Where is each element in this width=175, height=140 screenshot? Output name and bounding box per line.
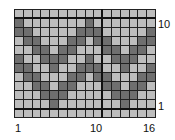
chart-cell (24, 19, 32, 27)
chart-cell (121, 82, 129, 90)
chart-cell (15, 64, 23, 72)
chart-cell (41, 100, 49, 108)
chart-cell (130, 100, 138, 108)
chart-cell (86, 64, 94, 72)
chart-cell (147, 64, 155, 72)
chart-cell (50, 64, 58, 72)
chart-cell (130, 19, 138, 27)
chart-cell (68, 55, 76, 63)
row-10-top-divider (14, 17, 156, 19)
chart-cell (33, 46, 41, 54)
chart-cell (112, 100, 120, 108)
chart-cell (50, 19, 58, 27)
chart-cell (138, 37, 146, 45)
chart-cell (15, 19, 23, 27)
chart-cell (50, 46, 58, 54)
chart-cell (33, 91, 41, 99)
chart-cell (147, 19, 155, 27)
chart-cell (121, 64, 129, 72)
chart-cell (138, 55, 146, 63)
chart-cell (24, 46, 32, 54)
chart-cell (86, 109, 94, 117)
chart-cell (112, 37, 120, 45)
column-label-10: 10 (90, 123, 102, 134)
chart-cell (15, 55, 23, 63)
chart-cell (103, 91, 111, 99)
chart-cell (138, 46, 146, 54)
chart-cell (77, 109, 85, 117)
chart-cell (130, 73, 138, 81)
chart-cell (130, 46, 138, 54)
chart-cell (147, 82, 155, 90)
chart-cell (15, 73, 23, 81)
chart-cell (121, 28, 129, 36)
chart-cell (130, 28, 138, 36)
chart-cell (103, 28, 111, 36)
chart-cell (121, 55, 129, 63)
row-label-10: 10 (158, 19, 170, 30)
chart-cell (59, 73, 67, 81)
chart-cell (68, 37, 76, 45)
chart-cell (68, 28, 76, 36)
chart-cell (112, 91, 120, 99)
chart-cell (41, 55, 49, 63)
chart-cell (33, 82, 41, 90)
chart-cell (103, 55, 111, 63)
chart-cell (103, 37, 111, 45)
chart-cell (68, 73, 76, 81)
chart-cell (33, 64, 41, 72)
chart-cell (68, 46, 76, 54)
chart-cell (15, 37, 23, 45)
column-label-16: 16 (143, 123, 155, 134)
colorwork-chart-grid (14, 9, 156, 118)
chart-cell (41, 19, 49, 27)
chart-cell (68, 82, 76, 90)
chart-cell (121, 109, 129, 117)
chart-cell (68, 19, 76, 27)
chart-cell (138, 19, 146, 27)
chart-cell (112, 46, 120, 54)
chart-cell (41, 46, 49, 54)
chart-cell (103, 19, 111, 27)
chart-cell (121, 73, 129, 81)
chart-cell (138, 82, 146, 90)
chart-cell (103, 46, 111, 54)
chart-cell (41, 82, 49, 90)
chart-cell (77, 82, 85, 90)
row-label-1: 1 (158, 101, 164, 112)
chart-cell (112, 19, 120, 27)
chart-cell (77, 19, 85, 27)
chart-cell (50, 100, 58, 108)
chart-cell (77, 37, 85, 45)
column-label-1: 1 (15, 123, 21, 134)
chart-cell (112, 55, 120, 63)
chart-cell (130, 37, 138, 45)
chart-cell (33, 55, 41, 63)
chart-cell (24, 55, 32, 63)
chart-cell (50, 28, 58, 36)
chart-cell (33, 109, 41, 117)
chart-cell (15, 46, 23, 54)
chart-cell (77, 100, 85, 108)
chart-cell (41, 28, 49, 36)
chart-cell (24, 91, 32, 99)
chart-cell (41, 73, 49, 81)
row-1-bottom-divider (14, 108, 156, 110)
chart-cell (68, 100, 76, 108)
chart-cell (112, 28, 120, 36)
chart-cell (130, 82, 138, 90)
chart-cell (41, 37, 49, 45)
chart-cell (138, 73, 146, 81)
chart-cell (59, 91, 67, 99)
chart-cell (138, 28, 146, 36)
chart-cell (147, 109, 155, 117)
chart-cell (103, 73, 111, 81)
chart-cell (50, 91, 58, 99)
chart-cell (86, 91, 94, 99)
chart-cell (50, 37, 58, 45)
chart-cell (59, 28, 67, 36)
column-10-divider (101, 9, 103, 118)
chart-cell (50, 55, 58, 63)
chart-cell (147, 100, 155, 108)
chart-cell (147, 91, 155, 99)
